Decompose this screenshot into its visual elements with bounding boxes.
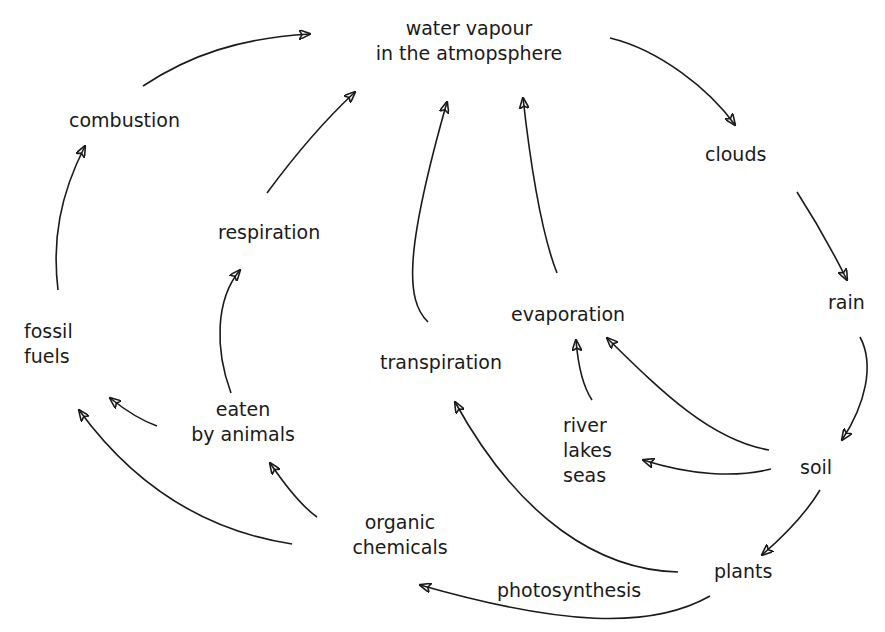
arrow-fossil-to-combustion — [56, 146, 85, 290]
node-fossil-line2: fuels — [24, 344, 73, 369]
arrow-animals-to-fossil — [110, 398, 157, 426]
node-river-line2: lakes — [563, 438, 612, 463]
label-photosynthesis: photosynthesis — [497, 578, 641, 603]
node-combustion: combustion — [69, 108, 180, 133]
node-organic-line1: organic — [345, 510, 455, 535]
arrow-clouds-to-rain — [797, 192, 847, 280]
arrow-combustion-to-vapour — [143, 34, 310, 86]
arrow-evaporation-to-vapour — [523, 98, 557, 273]
node-water-vapour: water vapour in the atmopsphere — [354, 16, 584, 66]
node-organic-line2: chemicals — [345, 535, 455, 560]
arrow-soil-to-river — [643, 460, 771, 474]
water-cycle-diagram: water vapour in the atmopsphere clouds r… — [0, 0, 885, 632]
arrow-respiration-to-vapour — [267, 92, 355, 193]
node-water-vapour-line2: in the atmopsphere — [354, 41, 584, 66]
arrow-organic-to-animals — [270, 463, 317, 517]
node-fossil-fuels: fossil fuels — [24, 319, 73, 369]
node-soil: soil — [800, 455, 832, 480]
node-rain: rain — [828, 290, 865, 315]
node-clouds: clouds — [705, 142, 766, 167]
node-eaten-line1: eaten — [183, 397, 303, 422]
arrow-vapour-to-clouds — [610, 38, 735, 125]
node-eaten-line2: by animals — [183, 422, 303, 447]
arrow-animals-to-respiration — [220, 270, 240, 393]
node-eaten-by-animals: eaten by animals — [183, 397, 303, 447]
node-plants: plants — [714, 559, 772, 584]
arrow-soil-to-evaporation — [607, 338, 769, 450]
node-fossil-line1: fossil — [24, 319, 73, 344]
arrow-rain-to-soil — [842, 337, 867, 440]
node-river-line3: seas — [563, 463, 612, 488]
node-transpiration: transpiration — [380, 350, 502, 375]
node-river-lakes-seas: river lakes seas — [563, 413, 612, 488]
node-water-vapour-line1: water vapour — [354, 16, 584, 41]
node-organic-chemicals: organic chemicals — [345, 510, 455, 560]
node-river-line1: river — [563, 413, 612, 438]
node-respiration: respiration — [218, 220, 320, 245]
arrow-soil-to-plants — [762, 490, 820, 555]
arrow-transpiration-to-vapour — [413, 102, 447, 322]
arrow-river-to-evaporation — [576, 340, 592, 400]
node-evaporation: evaporation — [511, 302, 625, 327]
